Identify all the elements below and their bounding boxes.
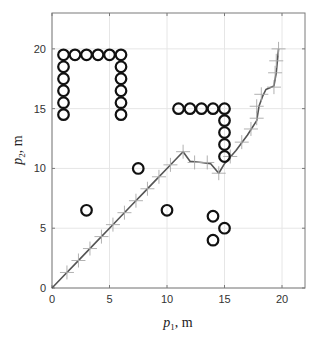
obstacle-circle-icon	[58, 85, 69, 96]
plus-marker-icon	[272, 42, 286, 56]
obstacle-circle-icon	[208, 211, 219, 222]
x-tick-label: 15	[218, 293, 230, 305]
x-tick-label: 0	[49, 293, 55, 305]
obstacle-circle-icon	[81, 205, 92, 216]
obstacle-circle-icon	[93, 50, 104, 61]
x-tick-label: 5	[106, 293, 112, 305]
y-tick-label: 15	[34, 103, 46, 115]
plus-marker-icon	[269, 54, 283, 68]
obstacle-series	[58, 50, 230, 246]
plus-marker-icon	[244, 122, 258, 136]
plus-marker-icon	[188, 155, 202, 169]
path-planning-chart: 05101520 05101520 p1, m p2, m	[0, 0, 332, 340]
trajectory-series	[52, 42, 286, 288]
plus-marker-icon	[267, 80, 281, 94]
x-axis-label: p1, m	[162, 315, 193, 332]
obstacle-circle-icon	[81, 50, 92, 61]
obstacle-circle-icon	[116, 109, 127, 120]
x-axis-ticks: 05101520	[49, 13, 288, 305]
obstacle-circle-icon	[208, 235, 219, 246]
obstacle-circle-icon	[116, 50, 127, 61]
obstacle-circle-icon	[116, 85, 127, 96]
obstacle-circle-icon	[58, 62, 69, 73]
obstacle-circle-icon	[58, 109, 69, 120]
y-tick-label: 20	[34, 43, 46, 55]
obstacle-circle-icon	[58, 50, 69, 61]
x-tick-label: 20	[276, 293, 288, 305]
obstacle-circle-icon	[70, 50, 81, 61]
y-tick-label: 0	[40, 282, 46, 294]
plus-marker-icon	[200, 155, 214, 169]
y-tick-label: 10	[34, 162, 46, 174]
y-tick-label: 5	[40, 222, 46, 234]
obstacle-circle-icon	[58, 73, 69, 84]
obstacle-circle-icon	[116, 62, 127, 73]
obstacle-circle-icon	[58, 97, 69, 108]
obstacle-circle-icon	[116, 73, 127, 84]
obstacle-circle-icon	[116, 97, 127, 108]
x-tick-label: 10	[161, 293, 173, 305]
y-axis-label: p2, m	[10, 135, 27, 166]
plus-marker-icon	[250, 111, 264, 125]
plus-marker-icon	[268, 66, 282, 80]
